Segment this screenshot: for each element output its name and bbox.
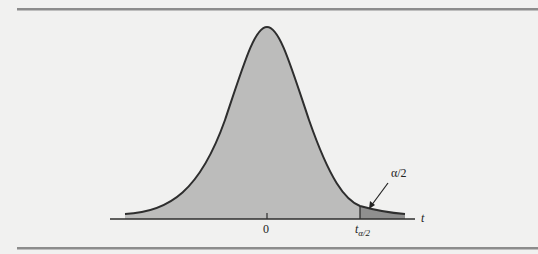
bottom-border: [17, 247, 538, 250]
alpha-arrow: [371, 183, 388, 206]
tick-label-zero: 0: [263, 222, 269, 237]
density-area: [125, 27, 360, 219]
alpha-annotation: α/2: [391, 166, 407, 181]
critical-subscript: α/2: [358, 228, 370, 238]
t-distribution-chart: [0, 0, 538, 254]
top-border: [17, 8, 538, 11]
axis-label-t: t: [421, 211, 424, 226]
tick-label-critical: tα/2: [355, 222, 370, 238]
